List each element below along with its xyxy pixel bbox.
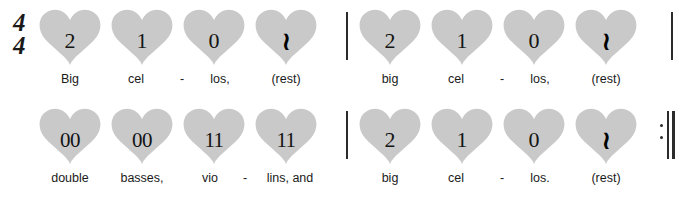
lyric-syllable: big — [358, 72, 422, 86]
beat-heart: 11 — [254, 107, 318, 165]
beat-heart: 0 — [502, 107, 566, 165]
lyric-syllable: cel — [424, 72, 488, 86]
beat-heart: 2 — [358, 8, 422, 66]
beat-heart: 1 — [110, 8, 174, 66]
barline-thick — [672, 111, 675, 159]
beat-heart: 0 — [182, 8, 246, 66]
repeat-dots — [660, 124, 664, 148]
beat-heart-rest: ≀ — [254, 8, 318, 66]
music-notation-sheet: 4 4 2 Big 1 cel - 0 los, — [0, 0, 684, 198]
beat-count: 0 — [502, 8, 566, 66]
beat-count: 11 — [182, 107, 246, 165]
lyric-syllable: cel — [424, 171, 488, 185]
lyric-hyphen: - — [175, 72, 189, 86]
beat-heart: 0 — [502, 8, 566, 66]
beat-heart: 1 — [430, 107, 494, 165]
barline-thin — [667, 111, 669, 159]
beat-heart-rest: ≀ — [574, 107, 638, 165]
lyric-syllable: Big — [38, 72, 102, 86]
quarter-rest-icon: ≀ — [254, 8, 318, 66]
lyric-syllable: los. — [508, 171, 572, 185]
beat-count: 00 — [38, 107, 102, 165]
system-1: 2 Big 1 cel - 0 los, ≀ (rest) — [0, 0, 684, 99]
repeat-dot-upper — [660, 124, 663, 127]
beat-count: 0 — [182, 8, 246, 66]
beat-heart: 00 — [38, 107, 102, 165]
lyric-syllable: los, — [508, 72, 572, 86]
lyric-syllable: cel — [104, 72, 168, 86]
lyric-syllable: big — [358, 171, 422, 185]
beat-heart: 1 — [430, 8, 494, 66]
barline — [346, 12, 348, 60]
beat-heart: 2 — [38, 8, 102, 66]
quarter-rest-icon: ≀ — [574, 8, 638, 66]
quarter-rest-icon: ≀ — [574, 107, 638, 165]
lyric-syllable: double — [38, 171, 102, 185]
beat-heart: 00 — [110, 107, 174, 165]
repeat-end-barline — [660, 111, 676, 159]
lyric-syllable: basses, — [110, 171, 174, 185]
beat-count: 1 — [110, 8, 174, 66]
beat-count: 11 — [254, 107, 318, 165]
lyric-syllable: vio — [178, 171, 242, 185]
repeat-dot-lower — [660, 136, 663, 139]
beat-count: 0 — [502, 107, 566, 165]
beat-heart-rest: ≀ — [574, 8, 638, 66]
barline-end — [671, 12, 673, 60]
beat-count: 2 — [358, 8, 422, 66]
lyric-hyphen: - — [495, 72, 509, 86]
lyric-hyphen: - — [495, 171, 509, 185]
beat-count: 1 — [430, 107, 494, 165]
system-2: 00 double 00 basses, 11 vio - 11 lins, a… — [0, 99, 684, 198]
beat-count: 1 — [430, 8, 494, 66]
lyric-syllable: (rest) — [254, 72, 318, 86]
beat-count: 2 — [358, 107, 422, 165]
beat-heart: 11 — [182, 107, 246, 165]
barline — [346, 111, 348, 159]
lyric-syllable: (rest) — [574, 72, 638, 86]
beat-heart: 2 — [358, 107, 422, 165]
lyric-syllable: los, — [188, 72, 252, 86]
lyric-syllable: lins, and — [248, 171, 332, 185]
lyric-syllable: (rest) — [574, 171, 638, 185]
beat-count: 2 — [38, 8, 102, 66]
beat-count: 00 — [110, 107, 174, 165]
